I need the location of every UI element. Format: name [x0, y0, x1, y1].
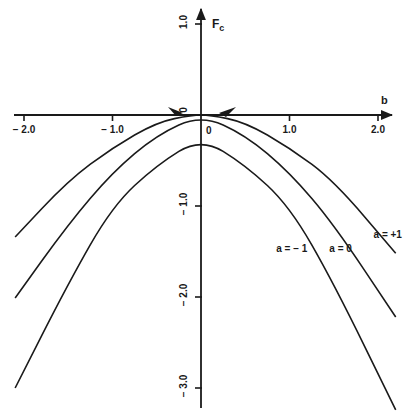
x-tick-label-zero: 0	[206, 125, 212, 136]
chart: − 2.0− 1.01.02.001.00− 1.0− 2.0− 3.0 b F…	[0, 0, 413, 420]
x-tick-label: 1.0	[283, 124, 297, 135]
x-tick-label: − 1.0	[101, 124, 124, 135]
series-curves	[15, 115, 396, 410]
series-label: a = 0	[329, 243, 352, 254]
y-axis-label: Fc	[212, 17, 224, 33]
series-curve	[15, 145, 396, 410]
y-tick-label: 1.0	[178, 15, 189, 29]
y-tick-label: − 2.0	[178, 283, 189, 306]
x-tick-label: − 2.0	[13, 124, 36, 135]
x-axis-label: b	[381, 94, 388, 106]
y-tick-label: − 3.0	[178, 374, 189, 397]
series-label: a = − 1	[276, 243, 308, 254]
series-label: a = +1	[374, 229, 403, 240]
series-curve	[15, 120, 396, 317]
x-tick-label: 2.0	[371, 124, 385, 135]
y-tick-label: − 1.0	[178, 192, 189, 215]
